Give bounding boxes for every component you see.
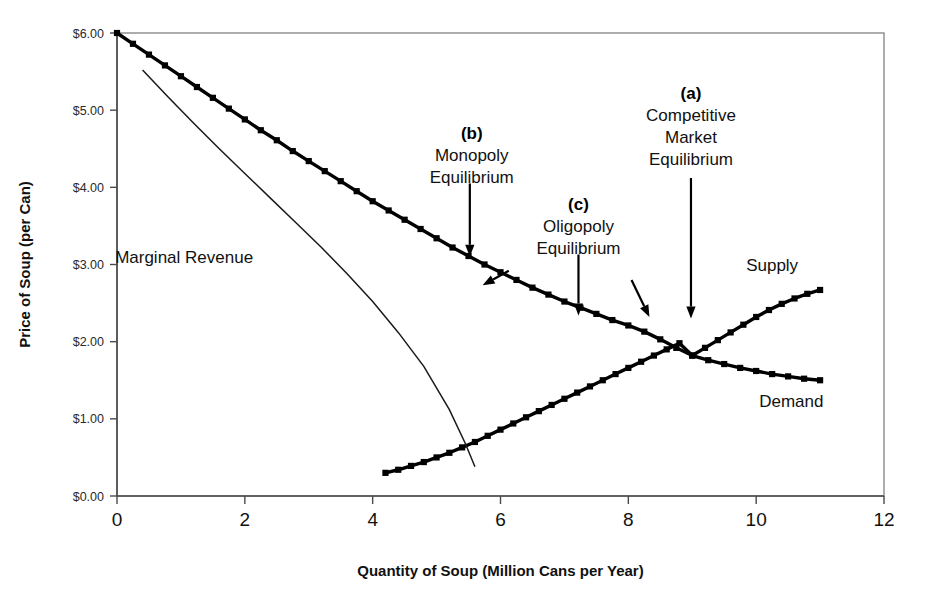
data-point-marker: [715, 337, 721, 343]
x-tick-label: 6: [495, 509, 506, 530]
data-point-marker: [817, 377, 823, 383]
y-tick-label: $2.00: [73, 335, 104, 349]
data-point-marker: [676, 340, 682, 346]
annotation-line-competitive: Equilibrium: [649, 150, 733, 169]
y-tick-label: $4.00: [73, 181, 104, 195]
data-point-marker: [549, 402, 555, 408]
data-point-marker: [306, 158, 312, 164]
data-point-marker: [382, 470, 388, 476]
data-point-marker: [728, 329, 734, 335]
annotation-tag-competitive: (a): [681, 84, 702, 103]
data-point-marker: [354, 188, 360, 194]
curve-label-supply: Supply: [746, 256, 798, 275]
data-point-marker: [705, 357, 711, 363]
data-point-marker: [753, 368, 759, 374]
data-point-marker: [258, 127, 264, 133]
x-axis-title: Quantity of Soup (Million Cans per Year): [357, 562, 643, 579]
data-point-marker: [612, 371, 618, 377]
x-tick-label: 0: [112, 509, 123, 530]
data-point-marker: [274, 137, 280, 143]
data-point-marker: [370, 198, 376, 204]
data-point-marker: [194, 84, 200, 90]
y-tick-label: $0.00: [73, 490, 104, 504]
x-tick-label: 10: [746, 509, 767, 530]
data-point-marker: [226, 106, 232, 112]
data-point-marker: [130, 41, 136, 47]
data-point-marker: [497, 427, 503, 433]
data-point-marker: [561, 298, 567, 304]
data-point-marker: [737, 365, 743, 371]
chart-canvas: $0.00$1.00$2.00$3.00$4.00$5.00$6.0002468…: [0, 0, 933, 605]
data-point-marker: [664, 346, 670, 352]
data-point-marker: [513, 277, 519, 283]
data-point-marker: [753, 314, 759, 320]
data-point-marker: [638, 359, 644, 365]
data-point-marker: [386, 207, 392, 213]
y-axis-title: Price of Soup (per Can): [16, 181, 33, 348]
data-point-marker: [481, 261, 487, 267]
data-point-marker: [402, 217, 408, 223]
economics-chart: $0.00$1.00$2.00$3.00$4.00$5.00$6.0002468…: [0, 0, 933, 605]
data-point-marker: [651, 352, 657, 358]
annotation-line-competitive: Market: [665, 128, 717, 147]
data-point-marker: [395, 467, 401, 473]
data-point-marker: [290, 148, 296, 154]
data-point-marker: [210, 95, 216, 101]
data-point-marker: [587, 383, 593, 389]
data-point-marker: [657, 336, 663, 342]
data-point-marker: [529, 285, 535, 291]
data-point-marker: [801, 376, 807, 382]
data-point-marker: [242, 116, 248, 122]
data-point-marker: [178, 73, 184, 79]
y-tick-label: $1.00: [73, 412, 104, 426]
data-point-marker: [322, 168, 328, 174]
data-point-marker: [408, 463, 414, 469]
curve-label-demand: Demand: [759, 392, 823, 411]
annotation-line-monopoly: Equilibrium: [430, 168, 514, 187]
annotation-line-monopoly: Monopoly: [435, 146, 509, 165]
data-point-marker: [459, 444, 465, 450]
data-point-marker: [721, 361, 727, 367]
data-point-marker: [536, 408, 542, 414]
data-point-marker: [740, 322, 746, 328]
data-point-marker: [689, 352, 695, 358]
data-point-marker: [446, 450, 452, 456]
data-point-marker: [545, 292, 551, 298]
data-point-marker: [561, 396, 567, 402]
data-point-marker: [421, 459, 427, 465]
data-point-marker: [114, 30, 120, 36]
data-point-marker: [766, 307, 772, 313]
data-point-marker: [574, 390, 580, 396]
y-tick-label: $6.00: [73, 27, 104, 41]
annotation-tag-oligopoly: (c): [568, 195, 589, 214]
data-point-marker: [600, 377, 606, 383]
data-point-marker: [510, 420, 516, 426]
data-point-marker: [472, 439, 478, 445]
data-point-marker: [485, 433, 491, 439]
data-point-marker: [625, 322, 631, 328]
data-point-marker: [791, 295, 797, 301]
data-point-marker: [804, 291, 810, 297]
curve-label-marginal-revenue: Marginal Revenue: [115, 248, 253, 267]
x-tick-label: 4: [367, 509, 378, 530]
data-point-marker: [162, 62, 168, 68]
data-point-marker: [779, 301, 785, 307]
annotation-line-competitive: Competitive: [646, 106, 736, 125]
data-point-marker: [146, 52, 152, 58]
x-tick-label: 12: [873, 509, 894, 530]
data-point-marker: [338, 178, 344, 184]
data-point-marker: [593, 311, 599, 317]
x-tick-label: 8: [623, 509, 634, 530]
data-point-marker: [641, 329, 647, 335]
data-point-marker: [785, 373, 791, 379]
x-tick-label: 2: [240, 509, 251, 530]
data-point-marker: [609, 317, 615, 323]
data-point-marker: [418, 226, 424, 232]
data-point-marker: [449, 244, 455, 250]
annotation-line-oligopoly: Oligopoly: [543, 217, 614, 236]
data-point-marker: [769, 371, 775, 377]
data-point-marker: [702, 345, 708, 351]
chart-background: [0, 0, 933, 605]
data-point-marker: [433, 454, 439, 460]
y-tick-label: $3.00: [73, 258, 104, 272]
